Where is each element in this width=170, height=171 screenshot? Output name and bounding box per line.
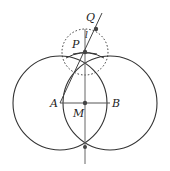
label-m: M: [72, 107, 85, 120]
label-a: A: [49, 97, 58, 110]
geometry-diagram: Q l P A B M: [0, 0, 170, 171]
label-l: l: [85, 30, 88, 40]
point-bottom-intersection: [83, 145, 87, 149]
label-q: Q: [86, 11, 95, 24]
point-q: [94, 27, 98, 31]
label-b: B: [111, 97, 120, 110]
point-p: [83, 50, 87, 54]
label-p: P: [71, 38, 80, 51]
point-m: [83, 101, 87, 105]
